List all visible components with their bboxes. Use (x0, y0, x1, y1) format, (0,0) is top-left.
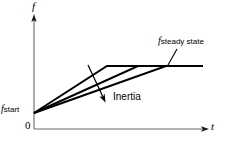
ramp-curve-high-inertia (34, 66, 203, 113)
y-axis-label-text: f (32, 0, 35, 12)
inertia-annotation-label: Inertia (113, 92, 141, 102)
frequency-vs-time-diagram: f t 0 fstart fsteady state Inertia (0, 0, 225, 146)
steady-state-leader-line (168, 49, 177, 65)
y-axis-label: f (32, 1, 35, 12)
diagram-canvas (0, 0, 225, 146)
origin-label: 0 (25, 120, 31, 131)
f-steady-state-label: fsteady state (158, 36, 204, 46)
x-axis-label-text: t (211, 120, 214, 132)
x-axis-label: t (211, 121, 214, 132)
ramp-curve-medium-inertia (34, 66, 203, 113)
f-steady-subscript: steady state (161, 37, 204, 46)
ramp-curve-low-inertia (34, 66, 203, 113)
f-start-label: fstart (1, 104, 19, 114)
f-start-subscript: start (4, 105, 20, 114)
